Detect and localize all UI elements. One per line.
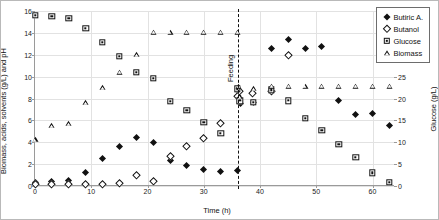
- open-triangle-icon: [370, 84, 376, 89]
- x-axis-tick-label: 30: [200, 188, 208, 195]
- legend-marker: [381, 36, 392, 47]
- open-triangle-icon: [285, 84, 291, 89]
- data-point: [335, 83, 342, 90]
- data-point: [318, 83, 325, 90]
- open-triangle-icon: [32, 137, 38, 142]
- open-triangle-icon: [218, 30, 224, 35]
- y-axis-right-tick-mark: [394, 142, 397, 143]
- data-point: [235, 83, 242, 90]
- open-triangle-icon: [353, 84, 359, 89]
- x-axis-tick-mark: [148, 185, 149, 188]
- x-axis-tick-mark: [260, 185, 261, 188]
- x-axis-tick-mark: [91, 185, 92, 188]
- y-axis-right-tick-mark: [394, 99, 397, 100]
- y-axis-right-tick-label: 0: [398, 183, 402, 190]
- y-axis-left-tick-label: 12: [24, 51, 32, 58]
- open-triangle-icon: [167, 30, 173, 35]
- y-axis-right-tick-mark: [394, 164, 397, 165]
- open-triangle-icon: [250, 86, 256, 91]
- open-triangle-icon: [336, 84, 342, 89]
- legend-label: Biomass: [393, 49, 422, 58]
- legend-label: Butiric A.: [393, 13, 423, 22]
- x-axis-tick-mark: [316, 185, 317, 188]
- data-point: [200, 29, 207, 36]
- data-point: [250, 85, 257, 92]
- open-triangle-icon: [201, 30, 207, 35]
- x-axis-tick-mark: [373, 185, 374, 188]
- data-point: [167, 29, 174, 36]
- open-triangle-icon: [184, 30, 190, 35]
- open-triangle-icon: [83, 100, 89, 105]
- feeding-annotation-label: Feeding: [226, 55, 235, 82]
- legend-marker: [381, 48, 392, 59]
- data-point: [32, 136, 39, 143]
- legend-label: Butanol: [393, 25, 418, 34]
- y-axis-left-tick-label: 10: [24, 73, 32, 80]
- y-axis-right-tick-label: 5: [398, 161, 402, 168]
- y-axis-left-tick-label: 14: [24, 29, 32, 36]
- data-point: [285, 83, 292, 90]
- plot-area: 0246810121416 0510152025303540 010203040…: [34, 11, 394, 186]
- data-point: [302, 83, 309, 90]
- y-axis-right-tick-label: 25: [398, 73, 406, 80]
- y-axis-right-title: Glucose (g/L): [429, 64, 438, 154]
- x-axis-tick-label: 10: [87, 188, 95, 195]
- open-triangle-icon: [116, 70, 122, 75]
- data-point: [116, 69, 123, 76]
- data-point: [268, 83, 275, 90]
- x-axis-tick-label: 40: [256, 188, 264, 195]
- legend-label: Glucose: [393, 37, 421, 46]
- data-point: [48, 122, 55, 129]
- open-triangle-icon: [386, 84, 392, 89]
- y-axis-left-title: Biomass, acids, solvents (g/L) and pH: [0, 26, 8, 196]
- x-axis-title: Time (h): [147, 206, 287, 215]
- data-point: [183, 29, 190, 36]
- data-point: [150, 29, 157, 36]
- y-axis-right-tick-mark: [394, 186, 397, 187]
- legend-item: Biomass: [381, 47, 423, 59]
- series-biomass: [35, 11, 394, 185]
- feeding-annotation-line: [238, 9, 239, 189]
- data-point: [82, 99, 89, 106]
- data-point: [99, 84, 106, 91]
- open-triangle-icon: [319, 84, 325, 89]
- y-axis-right-tick-label: 15: [398, 117, 406, 124]
- open-triangle-icon: [302, 84, 308, 89]
- data-point: [65, 120, 72, 127]
- y-axis-right-tick-mark: [394, 120, 397, 121]
- chart-figure: Biomass, acids, solvents (g/L) and pH Gl…: [0, 0, 439, 220]
- open-diamond-icon: [383, 25, 392, 34]
- open-triangle-icon: [133, 52, 139, 57]
- x-axis-tick-mark: [204, 185, 205, 188]
- x-axis-tick-label: 20: [144, 188, 152, 195]
- data-point: [217, 29, 224, 36]
- legend-item: Glucose: [381, 35, 423, 47]
- data-point: [369, 83, 376, 90]
- y-axis-right-tick-label: 10: [398, 139, 406, 146]
- open-triangle-icon: [384, 50, 390, 55]
- open-triangle-icon: [268, 84, 274, 89]
- legend-marker: [381, 12, 392, 23]
- open-square-icon: [384, 38, 390, 44]
- data-point: [352, 83, 359, 90]
- legend-item: Butanol: [381, 23, 423, 35]
- open-triangle-icon: [66, 121, 72, 126]
- open-triangle-icon: [150, 30, 156, 35]
- legend-item: Butiric A.: [381, 11, 423, 23]
- open-triangle-icon: [100, 85, 106, 90]
- chart-legend: Butiric A.ButanolGlucoseBiomass: [376, 7, 430, 63]
- y-axis-right-tick-label: 20: [398, 95, 406, 102]
- open-triangle-icon: [49, 123, 55, 128]
- data-point: [386, 83, 393, 90]
- filled-diamond-icon: [383, 13, 390, 20]
- data-point: [133, 51, 140, 58]
- x-axis-tick-label: 50: [312, 188, 320, 195]
- y-axis-right-tick-mark: [394, 77, 397, 78]
- legend-marker: [381, 24, 392, 35]
- x-axis-tick-label: 60: [369, 188, 377, 195]
